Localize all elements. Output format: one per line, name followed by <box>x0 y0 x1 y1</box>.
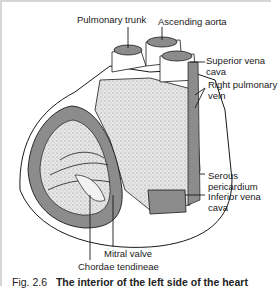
label-inferior-vena-cava: Inferior vena cava <box>208 191 261 213</box>
figure-title: The interior of the left side of the hea… <box>56 276 248 288</box>
label-serous-pericardium: Serous pericardium <box>208 170 258 192</box>
label-mitral-valve: Mitral valve <box>104 248 152 259</box>
right-pulmonary-vein <box>188 62 200 205</box>
label-pulmonary-trunk: Pulmonary trunk <box>77 14 146 25</box>
label-chordae-tendineae: Chordae tendineae <box>78 261 159 272</box>
label-right-pulmonary-vein: Right pulmonary vein <box>208 79 277 101</box>
superior-vena-cava-lumen <box>162 51 192 61</box>
figure-caption: Fig. 2.6 The interior of the left side o… <box>12 276 248 288</box>
label-superior-vena-cava: Superior vena cava <box>206 55 265 77</box>
inferior-vena-cava <box>148 190 186 214</box>
label-ascending-aorta: Ascending aorta <box>158 16 227 27</box>
figure-number: Fig. 2.6 <box>12 276 47 288</box>
